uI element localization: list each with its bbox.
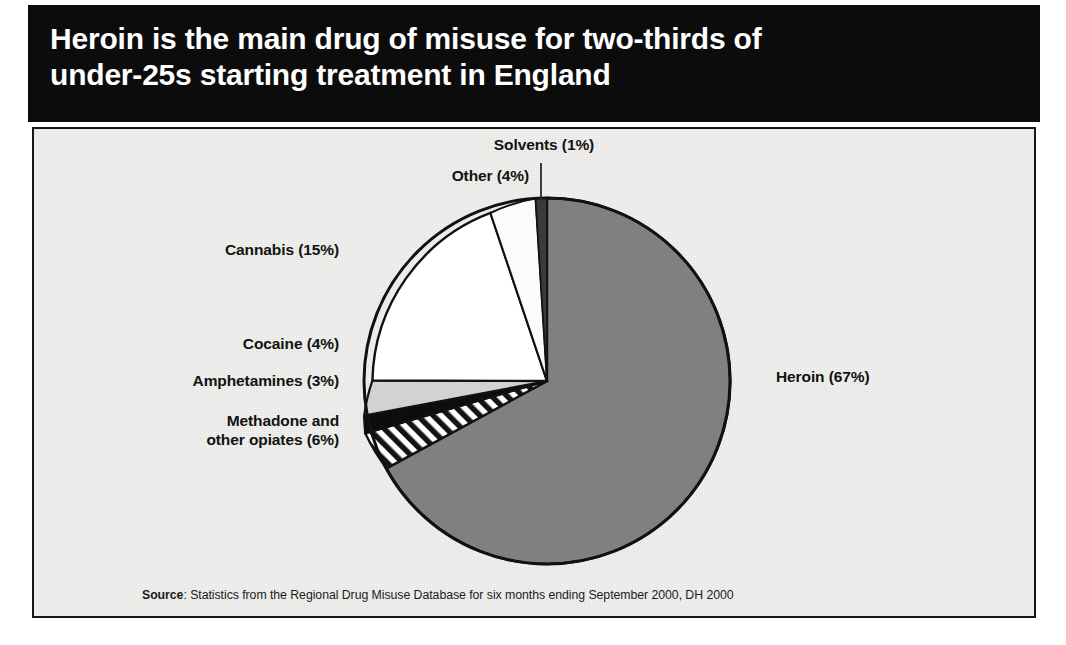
source-prefix: Source: [142, 588, 183, 602]
label-heroin: Heroin (67%): [776, 368, 870, 386]
label-other: Other (4%): [284, 167, 529, 185]
chart-panel: Heroin (67%) Solvents (1%) Other (4%) Ca…: [32, 127, 1036, 618]
label-cocaine: Cocaine (4%): [94, 335, 339, 353]
label-amphetamines: Amphetamines (3%): [64, 372, 339, 390]
page-title: Heroin is the main drug of misuse for tw…: [50, 21, 1010, 93]
source-note: Source: Statistics from the Regional Dru…: [142, 588, 734, 602]
label-methadone: Methadone and other opiates (6%): [64, 411, 339, 449]
title-banner: Heroin is the main drug of misuse for tw…: [28, 5, 1040, 122]
label-cannabis: Cannabis (15%): [94, 241, 339, 259]
source-text: Statistics from the Regional Drug Misuse…: [190, 588, 733, 602]
figure: Heroin is the main drug of misuse for tw…: [28, 5, 1040, 618]
label-solvents: Solvents (1%): [444, 136, 644, 154]
